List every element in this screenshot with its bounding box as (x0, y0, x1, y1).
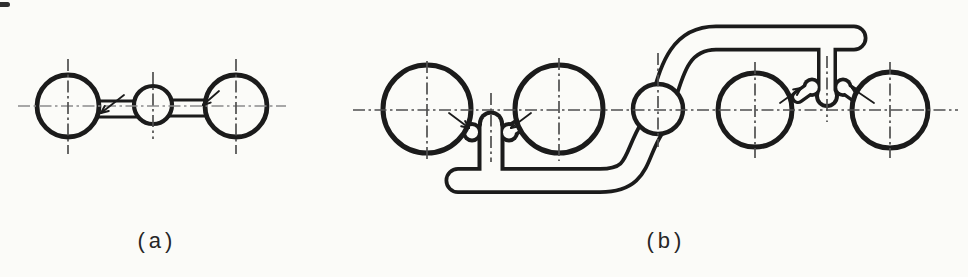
scan-artifact (0, 2, 10, 7)
panel-b-label: (b) (616, 228, 716, 254)
pcb-junction-diagram: (a) (b) (0, 0, 968, 277)
arrow-head (852, 88, 860, 89)
panel-b (353, 38, 958, 181)
panel-a-label: (a) (107, 228, 207, 254)
panel-a (18, 59, 286, 154)
